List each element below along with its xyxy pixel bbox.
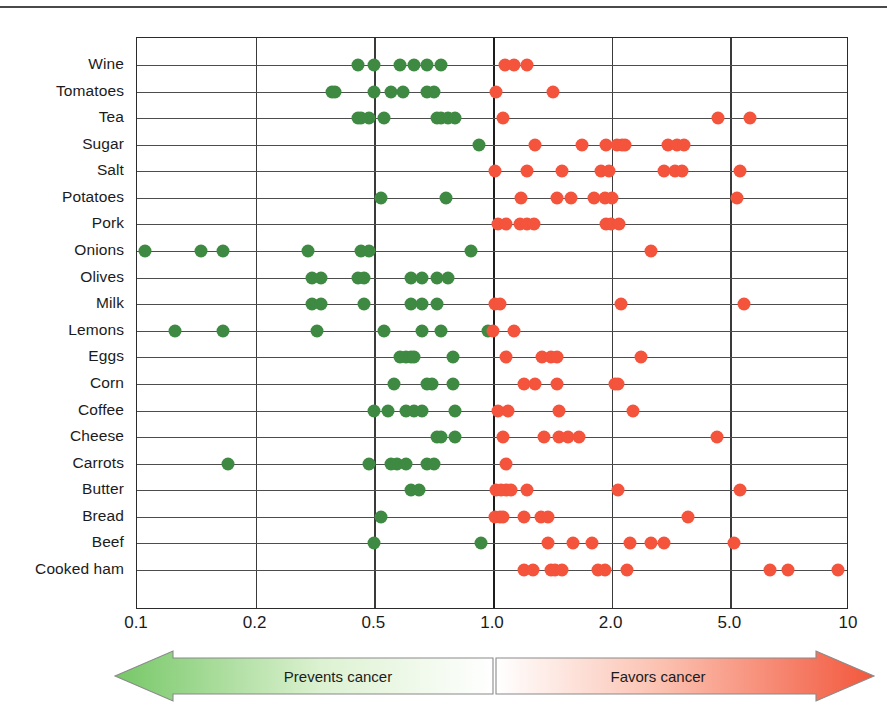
y-label-cooked-ham: Cooked ham — [35, 560, 124, 578]
row-rule — [137, 145, 847, 146]
data-point-protective — [329, 85, 342, 98]
data-point-risk — [658, 537, 671, 550]
data-point-protective — [420, 59, 433, 72]
data-point-risk — [542, 510, 555, 523]
data-point-protective — [413, 484, 426, 497]
data-point-risk — [605, 191, 618, 204]
favors-cancer-label: Favors cancer — [610, 668, 705, 685]
data-point-risk — [550, 351, 563, 364]
x-tick-0.2: 0.2 — [243, 613, 267, 633]
data-point-risk — [529, 377, 542, 390]
data-point-risk — [490, 85, 503, 98]
y-label-salt: Salt — [97, 161, 124, 179]
gridline-5.0 — [730, 38, 731, 608]
data-point-risk — [572, 431, 585, 444]
y-label-cheese: Cheese — [70, 427, 124, 445]
y-label-corn: Corn — [90, 374, 124, 392]
data-point-risk — [644, 245, 657, 258]
data-point-risk — [737, 298, 750, 311]
data-point-risk — [712, 112, 725, 125]
y-label-tomatoes: Tomatoes — [56, 82, 124, 100]
header-divider — [0, 6, 887, 8]
data-point-risk — [538, 431, 551, 444]
plot-area — [136, 37, 848, 609]
data-point-protective — [375, 510, 388, 523]
data-point-protective — [448, 112, 461, 125]
data-point-protective — [314, 298, 327, 311]
y-label-onions: Onions — [74, 241, 124, 259]
data-point-risk — [781, 564, 794, 577]
y-label-tea: Tea — [99, 108, 124, 126]
data-point-risk — [496, 510, 509, 523]
y-label-butter: Butter — [82, 480, 124, 498]
data-point-protective — [310, 324, 323, 337]
data-point-risk — [550, 191, 563, 204]
data-point-risk — [500, 218, 513, 231]
data-point-protective — [435, 431, 448, 444]
data-point-risk — [585, 537, 598, 550]
data-point-protective — [407, 351, 420, 364]
data-point-protective — [375, 191, 388, 204]
data-point-risk — [634, 351, 647, 364]
data-point-risk — [832, 564, 845, 577]
gridline-2.0 — [612, 38, 613, 608]
data-point-protective — [378, 324, 391, 337]
data-point-risk — [556, 165, 569, 178]
data-point-protective — [378, 112, 391, 125]
data-point-risk — [515, 191, 528, 204]
data-point-protective — [216, 245, 229, 258]
data-point-risk — [542, 537, 555, 550]
data-point-risk — [518, 510, 531, 523]
x-tick-10: 10 — [839, 613, 858, 633]
data-point-protective — [448, 431, 461, 444]
data-point-risk — [727, 537, 740, 550]
y-axis-category-labels: WineTomatoesTeaSugarSaltPotatoesPorkOnio… — [0, 37, 130, 609]
data-point-risk — [611, 377, 624, 390]
data-point-risk — [527, 218, 540, 231]
y-label-milk: Milk — [96, 294, 124, 312]
data-point-protective — [415, 404, 428, 417]
data-point-risk — [501, 404, 514, 417]
data-point-protective — [425, 377, 438, 390]
data-point-protective — [415, 271, 428, 284]
data-point-protective — [407, 59, 420, 72]
data-point-risk — [598, 564, 611, 577]
data-point-risk — [521, 484, 534, 497]
data-point-protective — [442, 271, 455, 284]
y-label-beef: Beef — [92, 533, 124, 551]
data-point-risk — [496, 431, 509, 444]
risk-direction-arrow-legend: Prevents cancer Favors cancer — [113, 650, 876, 702]
data-point-protective — [387, 377, 400, 390]
data-point-protective — [430, 298, 443, 311]
data-point-protective — [446, 351, 459, 364]
row-rule — [137, 278, 847, 279]
data-point-risk — [487, 324, 500, 337]
data-point-protective — [363, 112, 376, 125]
data-point-risk — [644, 537, 657, 550]
data-point-protective — [435, 324, 448, 337]
data-point-protective — [448, 404, 461, 417]
row-rule — [137, 543, 847, 544]
data-point-risk — [615, 298, 628, 311]
data-point-risk — [496, 112, 509, 125]
data-point-risk — [611, 484, 624, 497]
data-point-protective — [221, 457, 234, 470]
data-point-risk — [529, 138, 542, 151]
data-point-risk — [678, 138, 691, 151]
data-point-protective — [415, 324, 428, 337]
data-point-risk — [734, 484, 747, 497]
y-label-coffee: Coffee — [78, 401, 124, 419]
data-point-risk — [488, 165, 501, 178]
y-label-lemons: Lemons — [68, 321, 124, 339]
data-point-risk — [521, 59, 534, 72]
data-point-risk — [603, 165, 616, 178]
data-point-protective — [465, 245, 478, 258]
data-point-protective — [357, 271, 370, 284]
data-point-risk — [575, 138, 588, 151]
y-label-pork: Pork — [92, 214, 124, 232]
data-point-protective — [415, 298, 428, 311]
data-point-protective — [472, 138, 485, 151]
data-point-protective — [194, 245, 207, 258]
double-arrow-icon — [113, 650, 876, 702]
x-tick-5.0: 5.0 — [718, 613, 742, 633]
